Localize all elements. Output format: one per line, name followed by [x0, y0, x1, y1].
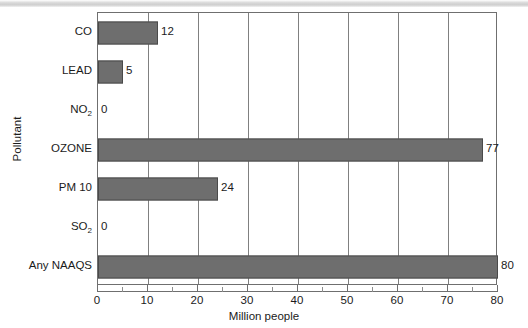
bar-row [98, 169, 496, 208]
x-tick-40 [297, 285, 298, 292]
x-tick-30 [247, 285, 248, 292]
x-tick-label-80: 80 [491, 294, 504, 306]
x-minor-tick-45 [322, 287, 323, 292]
x-minor-tick-65 [422, 287, 423, 292]
x-tick-label-0: 0 [94, 294, 100, 306]
category-label-lead: LEAD [0, 51, 97, 90]
x-tick-0 [97, 285, 98, 292]
x-tick-label-50: 50 [341, 294, 354, 306]
category-label-any-naaqs: Any NAAQS [0, 246, 97, 285]
value-label-lead: 5 [122, 51, 132, 90]
x-tick-label-20: 20 [191, 294, 204, 306]
x-minor-tick-35 [272, 287, 273, 292]
x-minor-tick-5 [122, 287, 123, 292]
x-tick-label-40: 40 [291, 294, 304, 306]
bar-pm-10 [98, 177, 218, 200]
bar-row [98, 208, 496, 247]
x-tick-10 [147, 285, 148, 292]
bar-co [98, 21, 158, 44]
value-label-pm-10: 24 [217, 168, 234, 207]
y-axis-title: Pollutant [11, 94, 23, 184]
x-tick-label-10: 10 [141, 294, 154, 306]
bar-row [98, 52, 496, 91]
x-tick-label-30: 30 [241, 294, 254, 306]
bar-row [98, 91, 496, 130]
bar-row [98, 130, 496, 169]
value-label-co: 12 [157, 12, 174, 51]
value-label-so2: 0 [97, 207, 107, 246]
plot-area [97, 12, 497, 285]
bar-any-naaqs [98, 255, 498, 278]
x-tick-50 [347, 285, 348, 292]
value-label-any-naaqs: 80 [497, 246, 514, 285]
horizontal-bar-chart: COLEADNO2OZONEPM 10SO2Any NAAQS 12507724… [0, 0, 528, 328]
x-minor-tick-55 [372, 287, 373, 292]
bar-row [98, 247, 496, 286]
bar-ozone [98, 138, 483, 161]
x-tick-60 [397, 285, 398, 292]
category-label-so2: SO2 [0, 207, 97, 246]
category-label-co: CO [0, 12, 97, 51]
x-tick-80 [497, 285, 498, 292]
x-minor-tick-15 [172, 287, 173, 292]
x-tick-label-70: 70 [441, 294, 454, 306]
x-minor-tick-25 [222, 287, 223, 292]
bar-lead [98, 60, 123, 83]
x-tick-70 [447, 285, 448, 292]
x-tick-label-60: 60 [391, 294, 404, 306]
value-label-ozone: 77 [482, 129, 499, 168]
x-minor-tick-75 [472, 287, 473, 292]
value-label-no2: 0 [97, 90, 107, 129]
x-tick-20 [197, 285, 198, 292]
x-axis-title: Million people [0, 310, 528, 322]
